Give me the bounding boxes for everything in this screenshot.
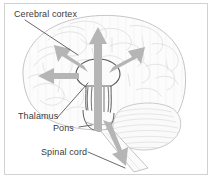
label-thalamus: Thalamus	[18, 111, 58, 121]
label-spinal-cord: Spinal cord	[41, 147, 87, 157]
figure-root: Cerebral cortex Thalamus Pons Spinal cor…	[0, 0, 212, 182]
label-pons: Pons	[53, 123, 74, 133]
brain-diagram-svg	[0, 0, 212, 182]
label-cerebral-cortex: Cerebral cortex	[14, 9, 77, 19]
